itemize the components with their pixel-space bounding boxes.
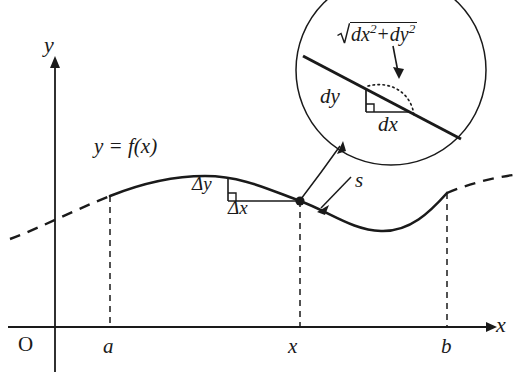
radicand: dx2+dy2: [350, 22, 417, 44]
arc-length-label: s: [355, 170, 363, 191]
axes-group: [8, 56, 497, 372]
x-tick-label-a: a: [103, 336, 114, 357]
s-leader-line: [321, 177, 351, 208]
delta-x-label: Δx: [228, 198, 248, 217]
curve-solid-main: [110, 176, 447, 231]
curve-dashed-left: [10, 196, 110, 239]
radicand-operator: +: [376, 23, 389, 45]
curve-dashed-right: [447, 175, 513, 193]
dx-label: dx: [378, 114, 398, 135]
hypotenuse-leader-arrowhead: [393, 67, 404, 79]
y-axis-arrowhead: [50, 56, 60, 68]
x-tick-label-b: b: [441, 336, 452, 357]
hypotenuse-formula-label: dx2+dy2: [337, 22, 417, 44]
hypotenuse-label-pointer-group: [393, 46, 404, 79]
function-label: y = f(x): [94, 136, 157, 157]
x-tick-label-x: x: [288, 336, 297, 357]
radicand-term2-base: dy: [390, 23, 409, 45]
y-axis-label: y: [44, 34, 54, 56]
dy-label: dy: [320, 86, 340, 107]
origin-label: O: [18, 334, 33, 355]
arc-length-figure: y x O a x b y = f(x) Δy Δx s dy dx dx2+d…: [0, 0, 515, 383]
arc-length-pointer-group: [317, 177, 351, 215]
radical-sign-icon: [337, 22, 350, 44]
right-angle-marker-differential: [366, 104, 374, 112]
curve-group: [10, 175, 513, 239]
x-axis-label: x: [496, 314, 506, 336]
figure-canvas: [0, 0, 515, 383]
radicand-term1-base: dx: [351, 23, 370, 45]
radical-expression: dx2+dy2: [337, 22, 417, 44]
drop-lines-group: [110, 193, 447, 327]
magnifier-callout-curve: [301, 146, 340, 199]
tangent-point-dot: [295, 196, 304, 205]
radicand-term2-exponent: 2: [409, 21, 416, 36]
delta-y-label: Δy: [192, 174, 212, 193]
